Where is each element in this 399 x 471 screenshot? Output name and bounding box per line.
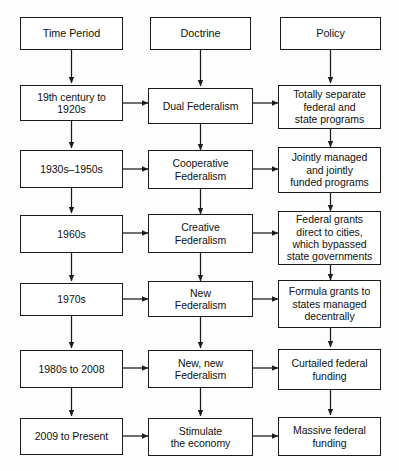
header-policy-label: Policy	[284, 27, 377, 39]
node-policy-row1-label: Totally separate federal and state progr…	[282, 88, 377, 125]
node-time-period-row5-label: 1980s to 2008	[24, 363, 119, 375]
node-doctrine-row1-label: Dual Federalism	[152, 100, 249, 112]
header-time-period: Time Period	[20, 17, 123, 50]
node-time-period-row3-label: 1960s	[24, 228, 119, 240]
node-policy-row3-label: Federal grants direct to cities, which b…	[282, 213, 377, 263]
node-policy-row5: Curtailed federal funding	[278, 349, 381, 390]
node-doctrine-row1: Dual Federalism	[148, 88, 253, 124]
node-time-period-row1: 19th century to 1920s	[20, 85, 123, 121]
node-time-period-row3: 1960s	[20, 215, 123, 253]
node-policy-row4: Formula grants to states managed decentr…	[278, 280, 381, 328]
node-doctrine-row6: Stimulate the economy	[148, 418, 253, 456]
node-doctrine-row2: Cooperative Federalism	[148, 150, 253, 189]
header-doctrine-label: Doctrine	[154, 27, 247, 39]
node-doctrine-row4-label: New Federalism	[152, 287, 249, 312]
node-policy-row6: Massive federal funding	[278, 417, 381, 456]
node-time-period-row2: 1930s–1950s	[20, 150, 123, 188]
node-policy-row6-label: Massive federal funding	[282, 424, 377, 449]
node-doctrine-row4: New Federalism	[148, 281, 253, 317]
node-time-period-row1-label: 19th century to 1920s	[24, 91, 119, 116]
node-time-period-row6-label: 2009 to Present	[24, 430, 119, 442]
node-time-period-row4-label: 1970s	[24, 293, 119, 305]
node-time-period-row6: 2009 to Present	[20, 418, 123, 455]
node-policy-row2: Jointly managed and jointly funded progr…	[278, 147, 381, 193]
node-doctrine-row5: New, new Federalism	[148, 350, 253, 388]
node-doctrine-row2-label: Cooperative Federalism	[152, 157, 249, 182]
node-policy-row2-label: Jointly managed and jointly funded progr…	[282, 151, 377, 188]
node-policy-row3: Federal grants direct to cities, which b…	[278, 211, 381, 265]
header-doctrine: Doctrine	[150, 17, 251, 50]
node-doctrine-row3: Creative Federalism	[148, 214, 253, 253]
node-time-period-row2-label: 1930s–1950s	[24, 163, 119, 175]
node-time-period-row5: 1980s to 2008	[20, 350, 123, 388]
flowchart-canvas: Time Period Doctrine Policy 19th century…	[0, 0, 399, 471]
node-doctrine-row3-label: Creative Federalism	[152, 221, 249, 246]
node-doctrine-row6-label: Stimulate the economy	[152, 425, 249, 450]
node-doctrine-row5-label: New, new Federalism	[152, 357, 249, 382]
node-policy-row4-label: Formula grants to states managed decentr…	[282, 285, 377, 322]
node-policy-row1: Totally separate federal and state progr…	[278, 85, 381, 129]
node-policy-row5-label: Curtailed federal funding	[282, 357, 377, 382]
node-time-period-row4: 1970s	[20, 283, 123, 316]
header-time-period-label: Time Period	[24, 27, 119, 39]
header-policy: Policy	[280, 17, 381, 50]
